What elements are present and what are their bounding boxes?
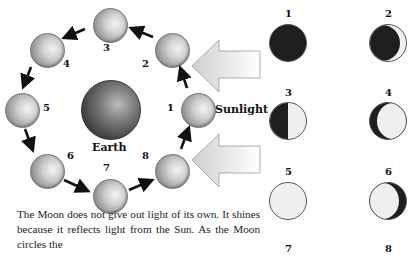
arrow-4-to-5 — [24, 67, 31, 85]
phase-label-5: 5 — [285, 166, 292, 177]
phase-2-waxing-crescent — [369, 24, 407, 62]
arrow-6-to-7 — [64, 180, 86, 190]
phase-1-new-moon — [269, 24, 307, 62]
phase-6-waning-gibbous — [369, 182, 407, 220]
arrow-3-to-4 — [66, 29, 85, 37]
caption-text: The Moon does not give out light of its … — [17, 207, 260, 252]
arrow-7-to-8 — [129, 181, 150, 190]
arrow-8-to-1 — [181, 130, 188, 149]
phase-label-4: 4 — [385, 87, 392, 98]
phase-4-waxing-gibbous — [369, 102, 407, 140]
sunlight-arrow-bottom — [192, 134, 260, 187]
phase-label-7: 7 — [285, 243, 292, 254]
arrow-5-to-6 — [25, 129, 32, 148]
phase-label-1: 1 — [285, 8, 292, 19]
phase-label-3: 3 — [285, 87, 292, 98]
phase-label-6: 6 — [385, 166, 392, 177]
phase-label-8: 8 — [385, 243, 392, 254]
arrow-2-to-3 — [133, 29, 153, 37]
phase-5-full-moon — [269, 182, 307, 220]
phase-3-first-quarter — [269, 102, 307, 140]
phase-label-2: 2 — [385, 8, 392, 19]
arrow-1-to-2 — [181, 70, 187, 88]
sunlight-arrow-top — [192, 40, 260, 92]
